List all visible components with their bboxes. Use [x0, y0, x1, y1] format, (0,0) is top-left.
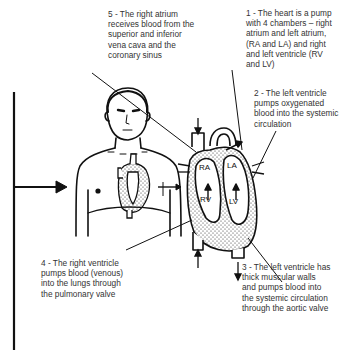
chest-heart: [118, 154, 150, 218]
large-heart: [187, 128, 256, 258]
label-1-line: (RA and LA) and right: [246, 39, 362, 49]
chamber-ra: RA: [199, 163, 211, 172]
label-5-line: vena cava and the: [108, 40, 228, 50]
label-4-line: into the lungs through: [41, 278, 151, 288]
annotation-4-right-ventricle: 4 - The right ventricle pumps blood (ven…: [41, 258, 151, 299]
leader-4: [126, 220, 192, 250]
label-4-line: pumps blood (venous): [41, 268, 151, 278]
label-1-line: 1 - The heart is a pump: [246, 8, 362, 18]
left-bracket-arrow: [14, 92, 67, 350]
label-1-line: atrium and left atrium,: [246, 28, 362, 38]
label-3-line: thick muscular walls: [242, 272, 362, 282]
label-1-line: and LV): [246, 59, 362, 69]
chamber-lv: LV: [229, 197, 239, 206]
label-4-line: 4 - The right ventricle: [41, 258, 151, 268]
label-1-line: with 4 chambers – right: [246, 18, 362, 28]
label-2-line: circulation: [254, 119, 362, 129]
leader-2: [253, 131, 276, 178]
label-3-line: through the aortic valve: [242, 303, 362, 313]
label-3-line: the systemic circulation: [242, 293, 362, 303]
label-5-line: superior and inferior: [108, 29, 228, 39]
label-5-line: 5 - The right atrium: [108, 9, 228, 19]
label-3-line: and pumps blood into: [242, 282, 362, 292]
label-5-line: coronary sinus: [108, 50, 228, 60]
label-2-line: 2 - The left ventricle: [254, 88, 362, 98]
label-2-line: blood into the systemic: [254, 108, 362, 118]
annotation-3-left-ventricle-walls: 3 - The left ventricle has thick muscula…: [242, 262, 362, 313]
chamber-la: LA: [227, 161, 237, 170]
annotation-2-left-ventricle-pumps: 2 - The left ventricle pumps oxygenated …: [254, 88, 362, 129]
annotation-5-right-atrium: 5 - The right atrium receives blood from…: [108, 9, 228, 60]
label-3-line: 3 - The left ventricle has: [242, 262, 362, 272]
label-1-line: and left ventricle (RV: [246, 49, 362, 59]
label-5-line: receives blood from the: [108, 19, 228, 29]
annotation-1-heart-pump: 1 - The heart is a pump with 4 chambers …: [246, 8, 362, 69]
label-2-line: pumps oxygenated: [254, 98, 362, 108]
label-4-line: the pulmonary valve: [41, 289, 151, 299]
chamber-rv: RV: [200, 195, 212, 204]
